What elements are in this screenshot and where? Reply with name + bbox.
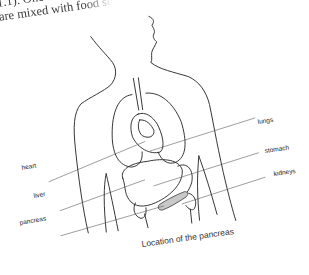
- kidneys-shape: [133, 193, 198, 229]
- label-heart: heart: [21, 161, 37, 171]
- label-liver: liver: [33, 190, 47, 199]
- lungs-shape: [108, 90, 187, 170]
- trachea: [133, 78, 142, 110]
- diagram-caption: Location of the pancreas: [141, 226, 235, 249]
- label-pancreas: pancreas: [19, 214, 47, 227]
- arm-inner-lines: [99, 155, 217, 232]
- label-lungs: lungs: [257, 116, 274, 126]
- label-kidneys: kidneys: [273, 167, 297, 178]
- pancreas-shape: [157, 191, 189, 210]
- label-stomach: stomach: [264, 144, 290, 154]
- pancreas-location-diagram: lungs heart stomach liver kidneys pancre…: [0, 0, 309, 275]
